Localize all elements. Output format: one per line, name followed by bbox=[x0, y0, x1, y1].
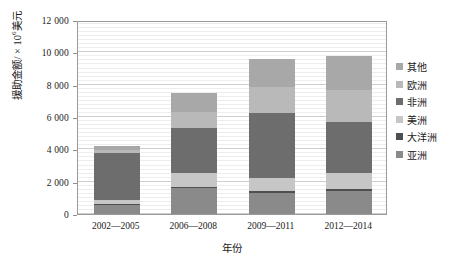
gridline-minor bbox=[78, 35, 386, 36]
bar-segment[interactable] bbox=[326, 173, 372, 189]
gridline-major bbox=[78, 51, 386, 52]
legend-label: 亚洲 bbox=[407, 147, 427, 162]
legend-item[interactable]: 亚洲 bbox=[396, 146, 468, 164]
y-axis-title-exponent: 6 bbox=[10, 31, 18, 35]
y-tick-label: 6 000 bbox=[47, 113, 69, 123]
gridline-minor bbox=[78, 23, 386, 24]
legend-swatch-icon bbox=[396, 151, 403, 158]
legend-label: 欧洲 bbox=[407, 77, 427, 92]
bar-segment[interactable] bbox=[94, 153, 140, 200]
legend-label: 其他 bbox=[407, 59, 427, 74]
legend-item[interactable]: 欧洲 bbox=[396, 76, 468, 94]
y-axis-title-unit: 美元 bbox=[12, 11, 23, 31]
bar-segment[interactable] bbox=[326, 56, 372, 90]
legend-swatch-icon bbox=[396, 63, 403, 70]
x-axis-title: 年份 bbox=[77, 240, 387, 255]
legend-item[interactable]: 美洲 bbox=[396, 111, 468, 129]
bar-segment[interactable] bbox=[171, 93, 217, 112]
gridline-minor bbox=[78, 39, 386, 40]
bar-segment[interactable] bbox=[171, 188, 217, 214]
y-tick-label: 0 bbox=[64, 210, 69, 220]
gridline-minor bbox=[78, 27, 386, 28]
y-tick-mark bbox=[73, 215, 77, 216]
y-axis-title: 援助金额/ × 106美元 bbox=[9, 0, 24, 136]
bar-stack[interactable] bbox=[249, 59, 295, 214]
bar-stack[interactable] bbox=[171, 93, 217, 214]
stacked-bar-chart: 02 0004 0006 0008 00010 00012 000 援助金额/ … bbox=[0, 0, 471, 268]
y-axis-title-base: 援助金额/ × 10 bbox=[12, 35, 23, 100]
legend-label: 非洲 bbox=[407, 94, 427, 109]
legend-item[interactable]: 非洲 bbox=[396, 93, 468, 111]
x-tick-label: 2012—2014 bbox=[293, 221, 403, 231]
bar-stack[interactable] bbox=[326, 56, 372, 214]
bar-segment[interactable] bbox=[249, 193, 295, 214]
legend-label: 大洋洲 bbox=[407, 129, 437, 144]
bar-segment[interactable] bbox=[249, 59, 295, 87]
y-tick-label: 8 000 bbox=[47, 81, 69, 91]
legend-item[interactable]: 大洋洲 bbox=[396, 128, 468, 146]
y-tick-label: 10 000 bbox=[42, 48, 69, 58]
bar-segment[interactable] bbox=[171, 173, 217, 187]
bar-segment[interactable] bbox=[249, 87, 295, 113]
bar-segment[interactable] bbox=[326, 122, 372, 173]
y-tick-label: 12 000 bbox=[42, 16, 69, 26]
legend-swatch-icon bbox=[396, 98, 403, 105]
legend-swatch-icon bbox=[396, 133, 403, 140]
gridline-minor bbox=[78, 31, 386, 32]
legend-item[interactable]: 其他 bbox=[396, 58, 468, 76]
gridline-minor bbox=[78, 47, 386, 48]
bar-segment[interactable] bbox=[326, 90, 372, 122]
bar-segment[interactable] bbox=[249, 113, 295, 178]
bar-segment[interactable] bbox=[326, 191, 372, 214]
y-tick-label: 2 000 bbox=[47, 178, 69, 188]
bar-segment[interactable] bbox=[249, 178, 295, 191]
bar-segment[interactable] bbox=[94, 205, 140, 214]
gridline-minor bbox=[78, 43, 386, 44]
y-tick-label: 4 000 bbox=[47, 145, 69, 155]
legend-swatch-icon bbox=[396, 116, 403, 123]
bar-segment[interactable] bbox=[171, 128, 217, 172]
plot-area bbox=[77, 21, 387, 215]
legend-label: 美洲 bbox=[407, 112, 427, 127]
bar-segment[interactable] bbox=[171, 112, 217, 128]
legend: 其他欧洲非洲美洲大洋洲亚洲 bbox=[396, 58, 468, 163]
legend-swatch-icon bbox=[396, 81, 403, 88]
bar-stack[interactable] bbox=[94, 146, 140, 215]
